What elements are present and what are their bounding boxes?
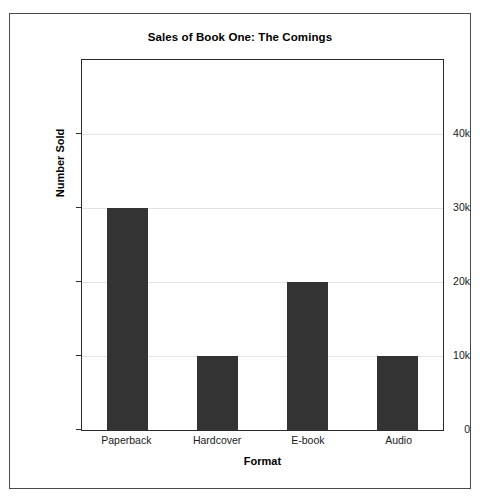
x-axis-title: Format — [81, 455, 444, 467]
bar-slot — [82, 60, 172, 430]
bar — [107, 208, 148, 430]
bar — [197, 356, 238, 430]
x-axis-tick-label: Hardcover — [172, 434, 263, 446]
bar-slot — [263, 60, 353, 430]
x-axis-tick-label: Audio — [353, 434, 444, 446]
bar-slot — [172, 60, 262, 430]
bars-layer — [82, 60, 443, 430]
bar-slot — [353, 60, 443, 430]
x-axis-tick-label: Paperback — [81, 434, 172, 446]
x-axis-tick-label: E-book — [263, 434, 354, 446]
bar — [287, 282, 328, 430]
x-axis-tick-labels: PaperbackHardcoverE-bookAudio — [81, 434, 444, 446]
bar — [377, 356, 418, 430]
y-axis-title: Number Sold — [54, 103, 66, 223]
chart-title: Sales of Book One: The Comings — [10, 31, 470, 43]
chart-frame: Sales of Book One: The Comings Number So… — [9, 13, 471, 489]
plot-area — [81, 59, 444, 431]
